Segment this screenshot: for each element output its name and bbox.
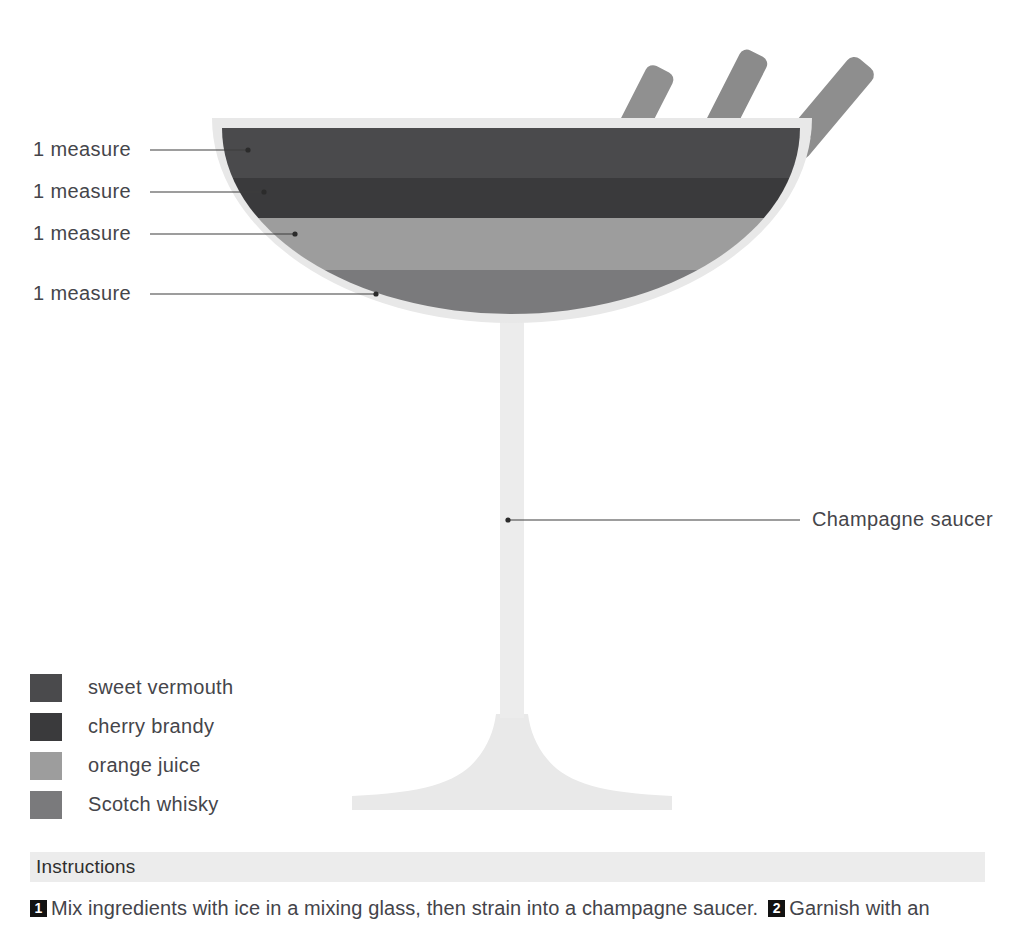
instructions-title: Instructions bbox=[36, 856, 136, 878]
legend-swatch-icon bbox=[30, 791, 62, 819]
recipe-diagram: 1 measure 1 measure 1 measure 1 measure … bbox=[0, 0, 1027, 927]
glass-base bbox=[352, 714, 672, 810]
step-number-badge: 2 bbox=[768, 900, 785, 917]
legend-swatch-icon bbox=[30, 752, 62, 780]
legend-item-label: cherry brandy bbox=[88, 715, 214, 738]
legend-item: cherry brandy bbox=[30, 707, 330, 746]
legend-swatch-icon bbox=[30, 674, 62, 702]
step-text: Garnish with an bbox=[789, 897, 929, 919]
legend-item-label: orange juice bbox=[88, 754, 201, 777]
legend-item: orange juice bbox=[30, 746, 330, 785]
legend-item-label: sweet vermouth bbox=[88, 676, 233, 699]
measure-label-cherry-brandy: 1 measure bbox=[33, 180, 131, 203]
part-label-champagne-saucer: Champagne saucer bbox=[812, 508, 993, 531]
step-text: Mix ingredients with ice in a mixing gla… bbox=[51, 897, 758, 919]
step-number-badge: 1 bbox=[30, 900, 47, 917]
instructions-body: 1Mix ingredients with ice in a mixing gl… bbox=[30, 893, 1000, 923]
legend-item-label: Scotch whisky bbox=[88, 793, 219, 816]
layer-cherry-brandy bbox=[200, 178, 840, 218]
legend-item: Scotch whisky bbox=[30, 785, 330, 824]
measure-label-orange-juice: 1 measure bbox=[33, 222, 131, 245]
legend: sweet vermouth cherry brandy orange juic… bbox=[30, 668, 330, 824]
legend-item: sweet vermouth bbox=[30, 668, 330, 707]
measure-label-scotch-whisky: 1 measure bbox=[33, 282, 131, 305]
glass-stem bbox=[500, 318, 524, 718]
measure-label-sweet-vermouth: 1 measure bbox=[33, 138, 131, 161]
layer-sweet-vermouth bbox=[200, 128, 840, 178]
instructions-header-bar bbox=[30, 852, 985, 882]
legend-swatch-icon bbox=[30, 713, 62, 741]
